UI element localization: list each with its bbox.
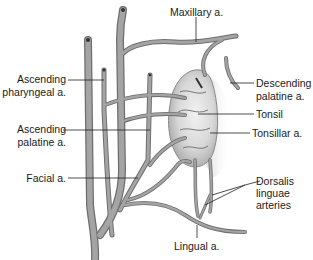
label-dorsalis-linguae-line2: linguae: [256, 187, 290, 199]
label-dorsalis-linguae-line1: Dorsalis: [256, 175, 294, 187]
label-ascending-pharyngeal-line2: pharyngeal a.: [0, 86, 66, 98]
label-dorsalis-linguae-line3: arteries: [256, 199, 291, 211]
tonsil-artery-diagram: Maxillary a. Ascending pharyngeal a. Des…: [0, 0, 313, 260]
label-tonsillar-artery: Tonsillar a.: [252, 127, 302, 139]
label-descending-palatine-line2: palatine a.: [256, 90, 304, 102]
label-facial-artery: Facial a.: [0, 172, 66, 184]
label-maxillary-artery: Maxillary a.: [170, 6, 223, 18]
label-lingual-artery: Lingual a.: [174, 240, 220, 252]
label-ascending-palatine-line2: palatine a.: [0, 136, 66, 148]
tonsil: [169, 70, 218, 167]
label-tonsil: Tonsil: [256, 108, 283, 120]
label-ascending-pharyngeal-line1: Ascending: [0, 73, 66, 85]
label-ascending-palatine-line1: Ascending: [0, 123, 66, 135]
label-descending-palatine-line1: Descending: [256, 77, 311, 89]
